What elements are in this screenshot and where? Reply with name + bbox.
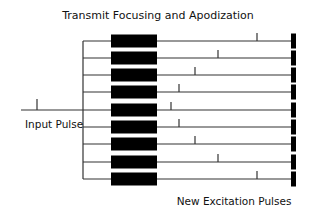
transmit-focusing-diagram: Transmit Focusing and Apodization Input …: [0, 0, 311, 217]
transducer-element: [291, 68, 296, 83]
input-pulse-group: [21, 99, 83, 110]
channel-row: [83, 102, 296, 118]
delay-apodization-box: [111, 104, 157, 117]
delay-apodization-box: [111, 35, 157, 48]
transducer-element: [291, 103, 296, 118]
delay-apodization-box: [111, 173, 157, 186]
delay-apodization-box: [111, 156, 157, 169]
channel-row: [83, 33, 296, 49]
output-pulses-label: New Excitation Pulses: [177, 195, 292, 207]
channel-row: [83, 119, 296, 135]
transducer-element: [291, 120, 296, 135]
delay-apodization-box: [111, 121, 157, 134]
channel-row: [83, 50, 296, 66]
delay-apodization-box: [111, 52, 157, 65]
input-pulse-label: Input Pulse: [25, 118, 83, 130]
transducer-element: [291, 137, 296, 152]
transducer-element: [291, 85, 296, 100]
channel-row: [83, 136, 296, 152]
channels: [83, 33, 296, 187]
channel-row: [83, 84, 296, 100]
transducer-element: [291, 34, 296, 49]
diagram-title: Transmit Focusing and Apodization: [61, 9, 254, 22]
channel-row: [83, 171, 296, 187]
channel-row: [83, 67, 296, 83]
transducer-element: [291, 155, 296, 170]
transducer-element: [291, 172, 296, 187]
delay-apodization-box: [111, 69, 157, 82]
transducer-element: [291, 51, 296, 66]
delay-apodization-box: [111, 86, 157, 99]
channel-row: [83, 154, 296, 170]
delay-apodization-box: [111, 138, 157, 151]
